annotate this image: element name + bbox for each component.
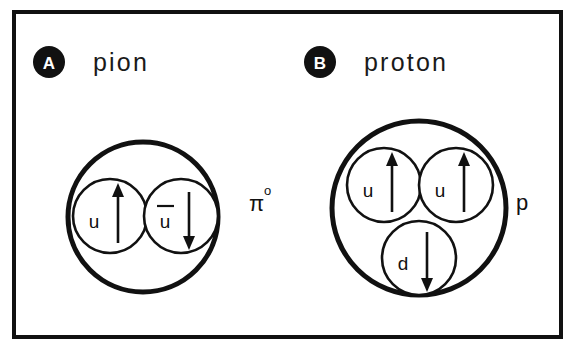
- panel-title-pion: pion: [93, 48, 149, 76]
- quark-circle: [347, 148, 421, 222]
- quark-label-u: u: [89, 211, 100, 232]
- quark-circle: [419, 148, 493, 222]
- figure-canvas: A pion u u π: [0, 0, 573, 353]
- panel-badge-b-letter: B: [314, 54, 326, 73]
- proton-quark-u-left-up: u: [347, 148, 421, 222]
- quark-circle: [73, 179, 147, 253]
- pion-quark-u-up: u: [73, 179, 147, 253]
- proton-quark-d-down: d: [382, 221, 456, 295]
- quark-label-ubar: u: [160, 211, 171, 232]
- particle-symbol-proton: p: [516, 190, 528, 215]
- quark-structure-figure: A pion u u π: [0, 0, 573, 353]
- particle-symbol-pion: π: [249, 191, 264, 216]
- panel-title-proton: proton: [364, 48, 448, 76]
- quark-label-d: d: [398, 253, 409, 274]
- particle-superscript-pion: o: [264, 183, 271, 198]
- panel-badge-a-letter: A: [43, 54, 55, 73]
- quark-label-u: u: [435, 180, 446, 201]
- quark-circle: [144, 179, 218, 253]
- quark-label-u: u: [363, 180, 374, 201]
- pion-quark-ubar-down: u: [144, 179, 218, 253]
- quark-circle: [382, 221, 456, 295]
- proton-quark-u-right-up: u: [419, 148, 493, 222]
